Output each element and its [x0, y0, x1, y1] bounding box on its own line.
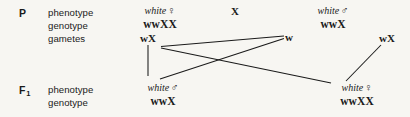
- p-father-gamete-wx: wX: [379, 32, 395, 44]
- f1-row-label-phenotype: phenotype: [48, 84, 93, 95]
- p-father-gamete-w: w: [285, 31, 293, 43]
- genetics-cross-diagram: P phenotype genotype gametes white♀ wwXX…: [0, 0, 410, 117]
- female-symbol-icon: ♀: [166, 5, 175, 16]
- line-mother-gamete-to-father-w: [161, 36, 284, 47]
- f1-row-label-genotype: genotype: [48, 97, 88, 108]
- male-symbol-icon: ♂: [169, 82, 178, 93]
- f1-son-phenotype: white♂: [147, 82, 178, 93]
- p-row-label-genotype: genotype: [48, 20, 88, 31]
- cross-symbol: X: [231, 5, 239, 17]
- generation-label-p: P: [19, 7, 26, 19]
- p-mother-phenotype: white♀: [144, 5, 175, 16]
- f1-son-genotype: wwX: [150, 95, 175, 107]
- p-row-label-gametes: gametes: [48, 33, 85, 44]
- male-symbol-icon: ♂: [339, 5, 348, 16]
- f1-daughter-genotype: wwXX: [340, 95, 374, 107]
- p-mother-gamete: wX: [140, 32, 156, 44]
- p-father-genotype: wwX: [320, 18, 345, 30]
- generation-label-f1: F1: [19, 84, 30, 96]
- line-father-w-to-f1-son: [160, 39, 284, 80]
- line-father-gamete-wx-to-f1-daughter: [346, 45, 381, 81]
- female-symbol-icon: ♀: [363, 82, 372, 93]
- p-father-phenotype: white♂: [317, 5, 348, 16]
- p-row-label-phenotype: phenotype: [48, 7, 93, 18]
- f1-daughter-phenotype: white♀: [341, 82, 372, 93]
- p-mother-genotype: wwXX: [143, 18, 177, 30]
- line-mother-gamete-to-f1-daughter: [161, 48, 331, 83]
